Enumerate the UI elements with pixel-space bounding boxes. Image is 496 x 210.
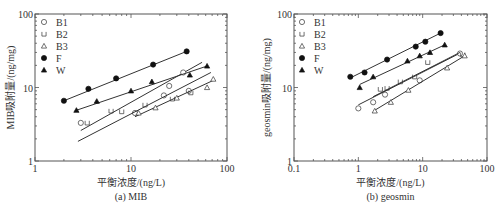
marker-filled-circle	[362, 70, 367, 75]
marker-filled-triangle	[371, 74, 376, 79]
x-axis-title: 平衡浓度/(ng/L)	[97, 176, 165, 189]
marker-open-circle	[41, 19, 46, 24]
marker-open-triangle	[299, 43, 304, 48]
legend-label: F	[314, 53, 320, 64]
series-F	[348, 30, 444, 79]
y-tick-label: 1	[287, 156, 292, 167]
marker-filled-circle	[184, 49, 189, 54]
marker-filled-circle	[348, 74, 353, 79]
legend-item-B3: B3	[41, 41, 67, 52]
marker-filled-triangle	[405, 58, 410, 63]
marker-open-circle	[78, 120, 83, 125]
marker-open-circle	[371, 100, 376, 105]
x-tick-label: 10	[418, 163, 428, 174]
legend-item-B1: B1	[299, 17, 325, 28]
marker-open-square	[120, 110, 124, 114]
legend-item-B2: B2	[300, 29, 326, 40]
marker-filled-circle	[299, 55, 304, 60]
legend-label: F	[56, 53, 62, 64]
marker-filled-triangle	[187, 72, 192, 77]
x-tick-label: 1	[33, 163, 38, 174]
marker-filled-circle	[385, 57, 390, 62]
marker-open-triangle	[41, 43, 46, 48]
series-B1	[356, 51, 463, 111]
marker-filled-triangle	[128, 88, 133, 93]
series-B3	[135, 77, 216, 117]
y-tick-label: 10	[23, 83, 33, 94]
marker-filled-circle	[423, 39, 428, 44]
y-tick-label: 100	[18, 9, 33, 20]
legend-item-B2: B2	[42, 29, 68, 40]
marker-open-triangle	[204, 85, 209, 90]
legend-label: B2	[314, 29, 326, 40]
series-B1	[78, 62, 202, 130]
marker-filled-circle	[86, 86, 91, 91]
marker-open-square	[378, 87, 382, 91]
series-F	[61, 49, 189, 104]
marker-filled-triangle	[204, 63, 209, 68]
legend-item-W: W	[299, 65, 324, 76]
marker-filled-circle	[61, 98, 66, 103]
legend-item-B3: B3	[299, 41, 325, 52]
series-W	[74, 63, 210, 112]
x-tick-label: 10	[126, 163, 136, 174]
marker-open-square	[300, 32, 304, 36]
x-axis-title: 平衡浓度/(ng/L)	[356, 176, 424, 189]
x-tick-label: 100	[480, 163, 495, 174]
y-tick-label: 10	[282, 83, 292, 94]
legend-item-B1: B1	[41, 17, 67, 28]
x-tick-label: 1	[356, 163, 361, 174]
marker-filled-circle	[114, 76, 119, 81]
marker-filled-circle	[413, 44, 418, 49]
series-B2	[78, 72, 211, 141]
marker-filled-circle	[438, 30, 443, 35]
x-tick-label: 100	[220, 163, 235, 174]
marker-filled-triangle	[41, 67, 46, 72]
legend-label: W	[56, 65, 66, 76]
legend-label: W	[314, 65, 324, 76]
marker-open-circle	[356, 106, 361, 111]
legend-item-W: W	[41, 65, 66, 76]
y-tick-label: 1	[28, 156, 33, 167]
panel-caption: (a) MIB	[115, 191, 148, 203]
y-tick-label: 100	[277, 9, 292, 20]
marker-filled-triangle	[357, 85, 362, 90]
marker-open-square	[42, 32, 46, 36]
legend-label: B3	[56, 41, 68, 52]
legend-label: B3	[314, 41, 326, 52]
chart-panel-a: 110100110100平衡浓度/(ng/L)MIB吸附量/(ng/mg)(a)…	[4, 9, 235, 203]
legend-item-F: F	[41, 53, 62, 64]
marker-open-circle	[382, 92, 387, 97]
marker-open-triangle	[211, 77, 216, 82]
legend-label: B1	[314, 17, 326, 28]
y-axis-title: MIB吸附量/(ng/mg)	[4, 46, 17, 130]
marker-open-square	[426, 60, 430, 64]
marker-open-circle	[167, 83, 172, 88]
marker-filled-circle	[151, 62, 156, 67]
legend-label: B2	[56, 29, 68, 40]
y-axis-title: geosmin吸附量/(ng/mg)	[260, 38, 273, 137]
marker-open-square	[85, 121, 89, 125]
legend-item-F: F	[299, 53, 320, 64]
panel-caption: (b) geosmin	[366, 191, 414, 203]
marker-filled-triangle	[299, 67, 304, 72]
marker-filled-triangle	[149, 79, 154, 84]
chart-panel-b: 0.1110100110100平衡浓度/(ng/L)geosmin吸附量/(ng…	[260, 9, 495, 203]
marker-open-circle	[299, 19, 304, 24]
marker-filled-triangle	[442, 42, 447, 47]
marker-filled-triangle	[94, 99, 99, 104]
legend-label: B1	[56, 17, 68, 28]
fit-line	[375, 56, 465, 110]
fit-line	[135, 80, 213, 116]
marker-filled-circle	[41, 55, 46, 60]
figure: 110100110100平衡浓度/(ng/L)MIB吸附量/(ng/mg)(a)…	[0, 0, 496, 210]
